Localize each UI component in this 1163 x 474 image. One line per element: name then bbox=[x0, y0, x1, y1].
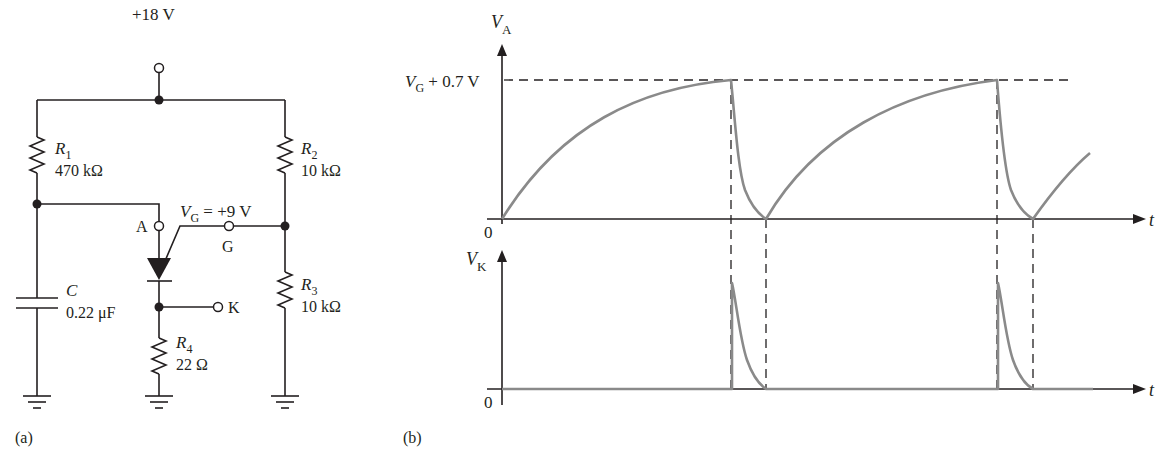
vk-time-label: t bbox=[1149, 380, 1155, 400]
gate-label: G bbox=[222, 238, 234, 255]
supply-label: +18 V bbox=[132, 5, 176, 24]
c-symbol: C bbox=[66, 281, 78, 300]
vk-axis-label: VK bbox=[466, 249, 487, 274]
r4-value: 22 Ω bbox=[176, 356, 208, 373]
circuit-panel: +18 V R1 470 kΩ C 0.22 μF A bbox=[15, 5, 341, 447]
r3-symbol: R3 bbox=[300, 275, 317, 298]
arrow-up-icon bbox=[497, 44, 507, 56]
gate-lead bbox=[165, 226, 225, 261]
arrow-right-icon bbox=[1133, 384, 1146, 394]
r3-resistor-symbol bbox=[278, 272, 292, 308]
peak-voltage-label: VG + 0.7 V bbox=[405, 72, 480, 95]
ground-icon bbox=[145, 396, 173, 408]
va-zero-label: 0 bbox=[484, 223, 493, 242]
gate-divider-junction bbox=[281, 222, 290, 231]
ground-icon bbox=[271, 396, 299, 408]
caption-b: (b) bbox=[403, 429, 422, 447]
waveform-panel: VA VG + 0.7 V 0 t VK 0 t (b) bbox=[403, 12, 1155, 447]
supply-terminal bbox=[155, 64, 164, 73]
r4-resistor-symbol bbox=[152, 338, 166, 374]
gate-terminal bbox=[225, 222, 234, 231]
c-value: 0.22 μF bbox=[66, 304, 116, 322]
cathode-label: K bbox=[228, 299, 240, 316]
scr-icon bbox=[147, 258, 171, 280]
cathode-terminal bbox=[214, 303, 223, 312]
gate-voltage-label: VG = +9 V bbox=[180, 202, 252, 225]
va-waveform bbox=[502, 80, 1090, 219]
va-axis-label: VA bbox=[491, 12, 512, 37]
r2-symbol: R2 bbox=[300, 139, 317, 162]
r2-resistor-symbol bbox=[278, 137, 292, 173]
r3-value: 10 kΩ bbox=[301, 298, 341, 315]
anode-label: A bbox=[136, 218, 148, 235]
va-time-label: t bbox=[1149, 210, 1155, 230]
vk-waveform bbox=[502, 283, 1093, 389]
arrow-right-icon bbox=[1133, 214, 1146, 224]
arrow-up-icon bbox=[497, 250, 507, 262]
r4-symbol: R4 bbox=[175, 333, 192, 356]
ground-icon bbox=[23, 396, 51, 408]
r1-symbol: R1 bbox=[54, 139, 71, 162]
caption-a: (a) bbox=[15, 429, 33, 447]
r1-value: 470 kΩ bbox=[55, 162, 103, 179]
r1-resistor-symbol bbox=[30, 137, 44, 173]
r2-value: 10 kΩ bbox=[301, 162, 341, 179]
vk-zero-label: 0 bbox=[484, 393, 493, 412]
anode-terminal bbox=[155, 222, 164, 231]
figure: +18 V R1 470 kΩ C 0.22 μF A bbox=[0, 0, 1163, 474]
